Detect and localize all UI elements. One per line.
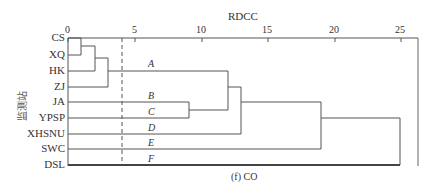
leaf-label-xhsnu: XHSNU bbox=[27, 127, 65, 139]
y-axis-title: 监测站 bbox=[14, 91, 29, 121]
x-axis-title: RDCC bbox=[228, 10, 258, 22]
cluster-label-d: D bbox=[148, 122, 155, 133]
x-axis-ticks bbox=[68, 38, 401, 42]
leaf-label-zj: ZJ bbox=[54, 80, 65, 92]
leaf-label-ja: JA bbox=[53, 95, 65, 107]
leaf-label-hk: HK bbox=[49, 64, 65, 76]
cluster-label-e: E bbox=[148, 137, 154, 148]
leaf-label-dsl: DSL bbox=[44, 158, 65, 170]
tick-label-25: 25 bbox=[395, 24, 405, 35]
cluster-label-f: F bbox=[148, 153, 154, 164]
leaf-label-cs: CS bbox=[52, 31, 65, 43]
cluster-label-a: A bbox=[148, 58, 154, 69]
cluster-label-c: C bbox=[148, 106, 155, 117]
leaf-label-xq: XQ bbox=[49, 48, 65, 60]
figure-caption: (f) CO bbox=[231, 171, 257, 182]
tick-label-10: 10 bbox=[196, 24, 206, 35]
tick-label-0: 0 bbox=[65, 24, 70, 35]
dendrogram-links bbox=[68, 38, 400, 165]
leaf-label-swc: SWC bbox=[41, 142, 65, 154]
tick-label-20: 20 bbox=[329, 24, 339, 35]
leaf-label-ypsp: YPSP bbox=[39, 111, 65, 123]
tick-label-5: 5 bbox=[132, 24, 137, 35]
tick-label-15: 15 bbox=[262, 24, 272, 35]
cluster-label-b: B bbox=[148, 90, 154, 101]
